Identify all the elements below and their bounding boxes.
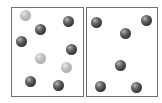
dark-particle-icon xyxy=(63,16,74,27)
dark-particle-icon xyxy=(120,28,131,39)
dark-particle-icon xyxy=(91,17,102,28)
dark-particle-icon xyxy=(53,80,64,91)
light-particle-icon xyxy=(35,53,46,64)
dark-particle-icon xyxy=(95,81,106,92)
dark-particle-icon xyxy=(35,24,46,35)
dark-particle-icon xyxy=(131,82,142,93)
dark-particle-icon xyxy=(115,60,126,71)
dark-particle-icon xyxy=(25,76,36,87)
dark-particle-icon xyxy=(66,44,77,55)
dark-particle-icon xyxy=(16,36,27,47)
light-particle-icon xyxy=(61,62,72,73)
dark-particle-icon xyxy=(141,15,152,26)
light-particle-icon xyxy=(20,10,31,21)
